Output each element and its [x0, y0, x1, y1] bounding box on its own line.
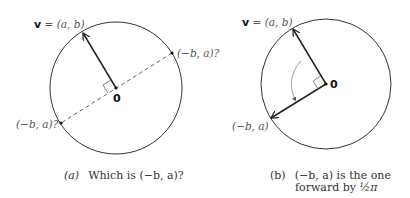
candidate-lower-label: (−b, a)? — [16, 118, 59, 130]
vector-v-arrow — [83, 33, 116, 88]
rotated-vector-label: (−b, a) — [232, 120, 269, 132]
origin-dot — [114, 86, 117, 89]
candidate-lower-dot — [59, 121, 62, 124]
svg-text:v = (a, b): v = (a, b) — [242, 16, 293, 29]
caption-b-line2: forward by — [295, 181, 359, 194]
vector-v-coords: = (a, b) — [41, 18, 84, 30]
origin-label: 0 — [113, 92, 121, 105]
candidate-upper-label: (−b, a)? — [177, 47, 220, 59]
origin-label: 0 — [330, 78, 338, 91]
caption-b-tag: (b) — [270, 169, 286, 182]
svg-text:v = (a, b): v = (a, b) — [34, 18, 85, 31]
origin-dot — [324, 82, 327, 85]
caption-a-tag: (a) — [64, 169, 79, 182]
vector-v-coords: = (a, b) — [249, 16, 292, 28]
panel-a: v = (a, b) 0 (−b, a)? (−b, a)? (a)Which … — [16, 18, 220, 182]
caption-b-fraction: ½π — [359, 181, 378, 194]
diagram-canvas: v = (a, b) 0 (−b, a)? (−b, a)? (a)Which … — [0, 0, 410, 198]
caption-a-text: Which is (−b, a)? — [88, 169, 184, 182]
right-angle-mark — [103, 80, 111, 93]
panel-b: v = (a, b) 0 (−b, a) (b)(−b, a) is the o… — [232, 16, 391, 194]
svg-text:forward by ½π: forward by ½π — [295, 181, 378, 194]
candidate-upper-dot — [170, 51, 173, 54]
svg-text:(a)Which is (−b, a)?: (a)Which is (−b, a)? — [64, 169, 184, 182]
rotation-arc — [291, 61, 301, 101]
vector-v-arrow — [293, 29, 326, 84]
